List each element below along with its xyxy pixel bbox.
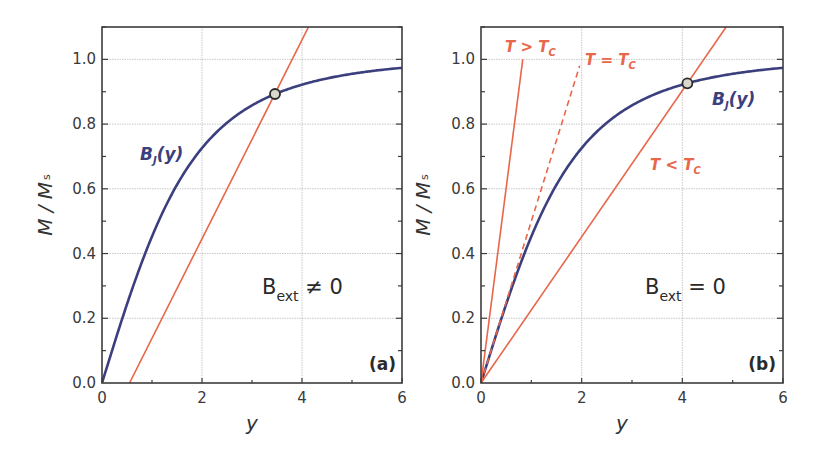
- x-axis-label-a: y: [245, 411, 259, 435]
- x-tick-label: 6: [778, 389, 788, 407]
- panel-b: 0246 0.00.20.40.60.81.0 y M / Ms BJ(y) T…: [411, 27, 788, 435]
- x-tick-label: 2: [197, 389, 207, 407]
- x-tick-label: 0: [476, 389, 486, 407]
- y-axis-label-a: M / Ms: [33, 174, 57, 236]
- ticks-a: [102, 27, 402, 383]
- line-series: [130, 27, 309, 383]
- plot-lines-a: [102, 27, 402, 383]
- curve-bj: [102, 68, 402, 383]
- y-tick-label: 0.4: [451, 245, 475, 263]
- label-t-equal-tc: T = TC: [585, 51, 636, 71]
- y-tick-label: 0.2: [72, 309, 96, 327]
- y-tick-label: 0.8: [72, 115, 96, 133]
- intersection-marker-b: [682, 78, 692, 88]
- y-tick-label: 0.8: [451, 115, 475, 133]
- curve-label-bj-a: BJ(y): [140, 144, 183, 166]
- x-tick-label: 2: [577, 389, 587, 407]
- y-tick-label: 1.0: [72, 50, 96, 68]
- y-tick-label: 0.6: [72, 180, 96, 198]
- axes-frame-b: [481, 27, 783, 383]
- label-t-less-tc: T < TC: [650, 156, 701, 176]
- y-axis-label-b: M / Ms: [411, 174, 435, 236]
- label-t-greater-tc: T > TC: [505, 38, 556, 58]
- y-tick-label: 0.0: [72, 374, 96, 392]
- grid-b: [481, 27, 783, 383]
- figure: 0246 0.00.20.40.60.81.0 y M / Ms BJ(y) B…: [0, 0, 813, 456]
- x-tick-label: 0: [97, 389, 107, 407]
- curve-label-bj-b: BJ(y): [712, 89, 755, 111]
- y-tick-labels-a: 0.00.20.40.60.81.0: [72, 50, 96, 392]
- x-tick-labels-b: 0246: [476, 389, 788, 407]
- x-tick-label: 4: [678, 389, 688, 407]
- annotation-bext-b: Bext = 0: [645, 275, 726, 304]
- y-tick-label: 0.4: [72, 245, 96, 263]
- curve-bj: [481, 68, 783, 383]
- ticks-b: [481, 27, 783, 383]
- x-tick-label: 4: [297, 389, 307, 407]
- x-tick-label: 6: [397, 389, 407, 407]
- x-axis-label-b: y: [615, 411, 629, 435]
- line-series: [481, 59, 523, 383]
- y-tick-label: 1.0: [451, 50, 475, 68]
- panel-tag-b: (b): [748, 354, 776, 374]
- plot-lines-b: [481, 27, 783, 383]
- intersection-marker-a: [270, 89, 280, 99]
- y-tick-label: 0.2: [451, 309, 475, 327]
- grid-a: [102, 27, 402, 383]
- y-tick-label: 0.0: [451, 374, 475, 392]
- panel-tag-a: (a): [369, 354, 396, 374]
- axes-frame-a: [102, 27, 402, 383]
- y-tick-labels-b: 0.00.20.40.60.81.0: [451, 50, 475, 392]
- panel-a: 0246 0.00.20.40.60.81.0 y M / Ms BJ(y) B…: [33, 27, 407, 435]
- y-tick-label: 0.6: [451, 180, 475, 198]
- x-tick-labels-a: 0246: [97, 389, 407, 407]
